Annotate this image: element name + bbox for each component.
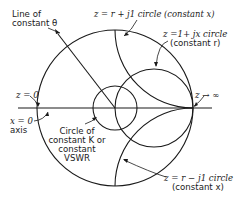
label-z-minus-j1: z = r − j1 circle (constant x)	[164, 174, 233, 192]
label-z-plus-j1: z = r + j1 circle (constant x)	[94, 10, 215, 19]
label-z-minus-j1-line2: (constant x)	[164, 183, 233, 192]
label-vswr-line4: VSWR	[46, 154, 108, 163]
leader-z-minus-j1	[124, 160, 166, 177]
label-line-theta-line2: constant θ	[12, 19, 57, 28]
label-x-zero-axis: x = 0 axis	[10, 117, 33, 135]
label-vswr-circle: Circle of constant K or constant VSWR	[46, 127, 108, 163]
constant-theta-line	[58, 34, 115, 108]
label-z-1-plus-jx: z =1+ jx circle (constant r)	[163, 30, 227, 48]
leader-x-zero	[34, 112, 48, 121]
label-line-theta: Line of constant θ	[12, 10, 57, 28]
label-z-infinity: z → ∞	[195, 91, 219, 100]
label-z-zero: z = 0	[16, 91, 39, 100]
label-x-zero-line2: axis	[10, 126, 33, 135]
label-z-1-plus-jx-line2: (constant r)	[163, 39, 227, 48]
